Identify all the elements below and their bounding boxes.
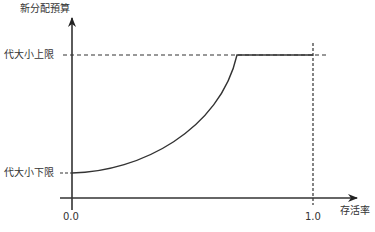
- upper-limit-label: 代大小上限: [4, 49, 54, 61]
- x-tick-start: 0.0: [63, 211, 79, 223]
- x-axis-label: 存活率: [340, 205, 370, 217]
- lower-limit-label: 代大小下限: [4, 167, 54, 179]
- y-axis-label: 新分配預算: [20, 3, 70, 15]
- diagram-canvas: [0, 0, 375, 232]
- allocation-curve: [72, 55, 313, 173]
- x-tick-end: 1.0: [305, 211, 321, 223]
